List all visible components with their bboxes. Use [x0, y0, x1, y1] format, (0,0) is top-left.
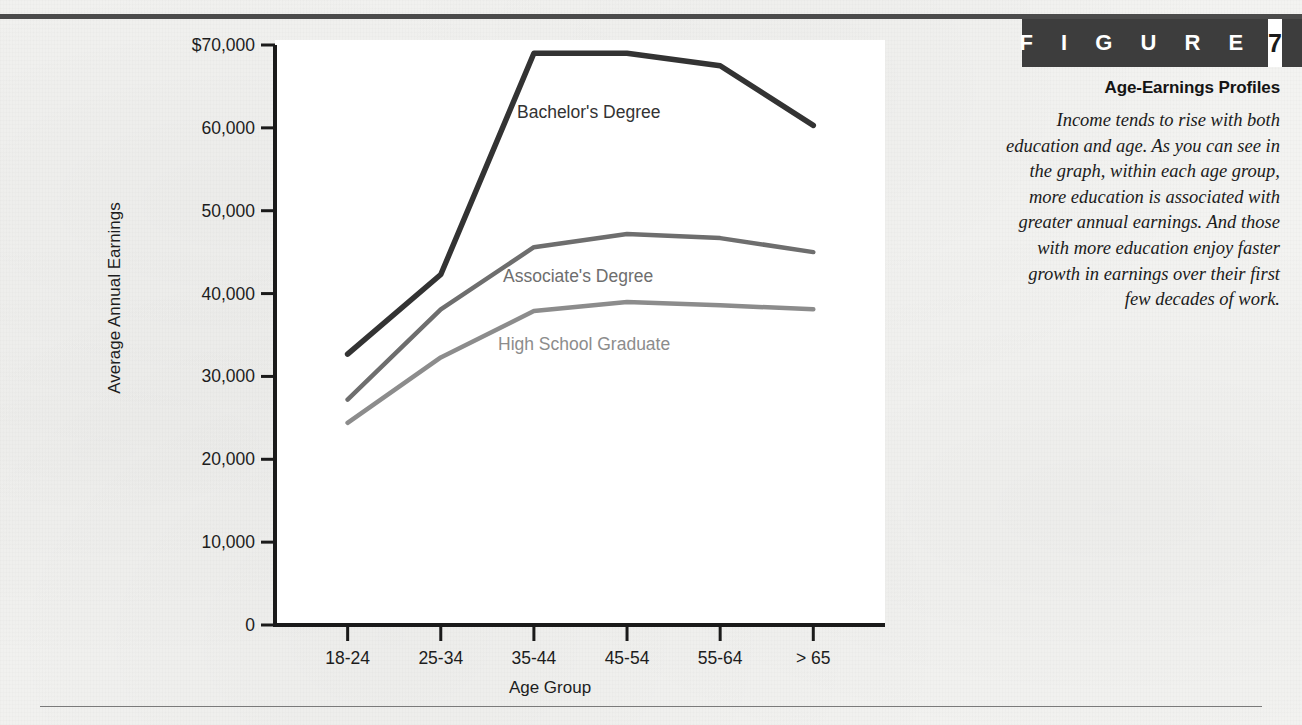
- y-tick-marks: [261, 45, 275, 625]
- series-line: [348, 53, 814, 354]
- x-tick-marks: [348, 625, 814, 641]
- figure-banner: F I G U R E 7: [1022, 19, 1302, 67]
- figure-banner-word: F I G U R E: [997, 30, 1268, 56]
- chart-panel: Average Annual Earnings Age Group 010,00…: [60, 28, 960, 688]
- figure-title: Age-Earnings Profiles: [1022, 78, 1280, 98]
- axes-group: [273, 45, 885, 625]
- figure-number: 7: [1268, 19, 1282, 67]
- bottom-rule: [40, 706, 1262, 707]
- series-line: [348, 302, 814, 423]
- chart-svg: [60, 28, 960, 688]
- series-lines: [348, 53, 814, 423]
- figure-caption: Income tends to rise with both education…: [1000, 108, 1280, 313]
